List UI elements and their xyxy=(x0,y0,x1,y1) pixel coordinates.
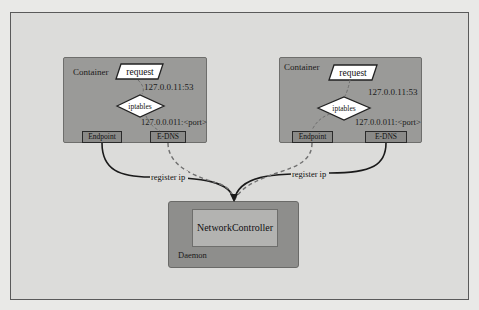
request-label-left: request xyxy=(126,67,154,77)
arrow-iptables-to-edns-left xyxy=(146,116,160,131)
arrow-iptables-to-endpoint-right xyxy=(312,114,330,130)
iptables-label-left: iptables xyxy=(128,102,151,111)
arrow-request-to-iptables-left xyxy=(138,80,143,94)
arrow-request-to-iptables-right xyxy=(345,80,350,96)
edge-label-left: register ip xyxy=(151,172,185,182)
request-label-right: request xyxy=(339,68,367,78)
arrowhead-daemon xyxy=(230,194,238,202)
edge-label-right: register ip xyxy=(292,169,326,179)
iptables-label-right: iptables xyxy=(332,104,355,113)
connectors-layer: request iptables request iptables regist… xyxy=(0,0,479,310)
